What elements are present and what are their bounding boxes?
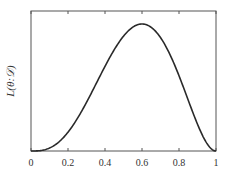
x-tick-label: 1 (214, 157, 219, 168)
x-ticks (31, 11, 216, 151)
likelihood-chart: 00.20.40.60.81 L(θ:𝒟) (0, 0, 228, 173)
x-tick-labels: 00.20.40.60.81 (29, 157, 219, 168)
y-axis-label: L(θ:𝒟) (4, 65, 17, 98)
likelihood-curve (31, 24, 216, 151)
x-tick-label: 0.2 (62, 157, 75, 168)
x-tick-label: 0.8 (173, 157, 186, 168)
plot-frame (31, 11, 216, 151)
x-tick-label: 0.6 (136, 157, 149, 168)
x-tick-label: 0 (29, 157, 34, 168)
x-tick-label: 0.4 (99, 157, 112, 168)
